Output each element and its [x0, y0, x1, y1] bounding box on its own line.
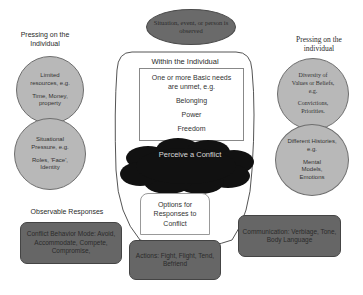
limited-resources-circle: Limited resources, e.g. Time, Money, pro… [16, 56, 84, 124]
response-options-box: Options for Responses to Conflict [140, 193, 210, 235]
limited-resources-title: Limited resources, e.g. [28, 72, 72, 88]
perceive-conflict-label: Perceive a Conflict [140, 150, 240, 159]
limited-resources-examples: Time, Money, property [25, 93, 75, 109]
different-histories-title: Different Histories, e.g. [287, 138, 337, 154]
need-item-power: Power [182, 110, 202, 119]
within-individual-title: Within the Individual [130, 57, 240, 66]
diversity-values-examples: Convictions, Priorities. [289, 100, 337, 116]
perceive-conflict-cloud [108, 136, 266, 196]
situational-pressure-title: Situational Pressure, e.g. [25, 136, 75, 152]
right-pressing-heading: Pressing on the individual [280, 35, 358, 54]
different-histories-circle: Different Histories, e.g. Mental Models,… [275, 124, 349, 196]
basic-needs-heading: One or more Basic needs are unmet, e.g. [150, 73, 234, 91]
situational-pressure-examples: Roles, 'Face', Identity [27, 157, 73, 173]
diversity-values-circle: Diversity of Values or Beliefs, e.g. Con… [277, 58, 349, 130]
different-histories-examples: Mental Models, Emotions [294, 159, 330, 182]
left-pressing-heading: Pressing on the Individual [10, 31, 80, 49]
need-item-belonging: Belonging [176, 96, 207, 105]
actions-label: Actions: Fight, Flight, Tend, Befriend [133, 252, 217, 269]
need-item-freedom: Freedom [177, 124, 205, 133]
conflict-behavior-mode-label: Conflict Behavior Mode: Avoid, Accommoda… [24, 230, 118, 255]
conflict-behavior-mode-box: Conflict Behavior Mode: Avoid, Accommoda… [20, 222, 122, 264]
communication-label: Communication: Verbiage, Tone, Body Lang… [242, 228, 337, 245]
situational-pressure-circle: Situational Pressure, e.g. Roles, 'Face'… [14, 118, 86, 190]
diversity-values-title: Diversity of Values or Beliefs, e.g. [290, 72, 336, 95]
actions-box: Actions: Fight, Flight, Tend, Befriend [129, 240, 221, 280]
communication-box: Communication: Verbiage, Tone, Body Lang… [238, 215, 341, 257]
basic-needs-box: One or more Basic needs are unmet, e.g. … [139, 68, 244, 141]
response-options-label: Options for Responses to Conflict [145, 200, 205, 228]
observable-responses-heading: Observable Responses [22, 208, 112, 217]
